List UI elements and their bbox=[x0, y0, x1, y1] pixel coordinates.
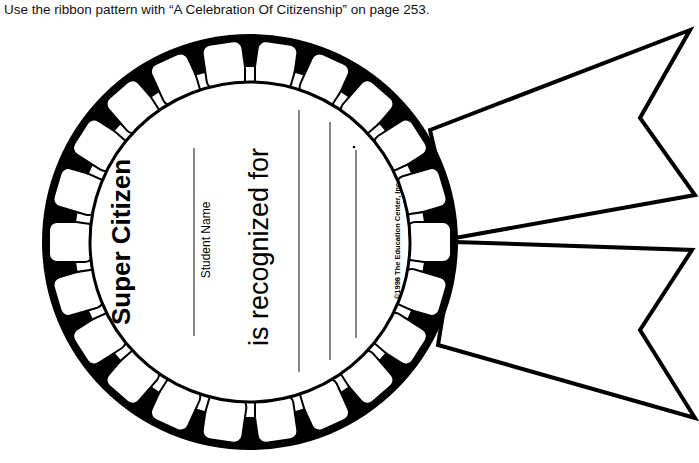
upper-ribbon-tail bbox=[430, 30, 695, 238]
copyright-text: ©1998 The Education Center, Inc. bbox=[393, 181, 402, 299]
lower-ribbon-tail bbox=[438, 242, 695, 418]
recognized-for-text: is recognized for bbox=[244, 148, 275, 346]
student-name-label: Student Name bbox=[199, 202, 213, 279]
period-dot bbox=[353, 146, 356, 149]
ribbon-tails bbox=[430, 30, 695, 418]
award-title: Super Citizen bbox=[106, 159, 137, 325]
